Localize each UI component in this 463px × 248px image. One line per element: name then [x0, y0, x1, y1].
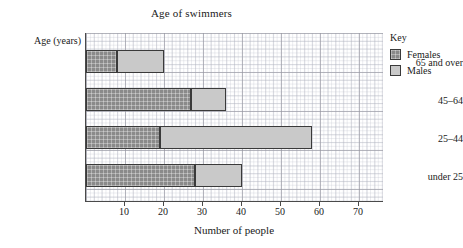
chart-title: Age of swimmers: [0, 7, 383, 19]
bar-segment-males: [160, 126, 312, 149]
legend-swatch-females-icon: [390, 49, 401, 60]
bar-segment-females: [86, 50, 117, 73]
legend-item-females: Females: [390, 49, 463, 60]
x-axis-tick-label: 30: [187, 206, 217, 217]
bar-segment-males: [117, 50, 164, 73]
legend-label-females: Females: [407, 49, 440, 60]
bar-segment-females: [86, 126, 160, 149]
category-label-45-64: 45–64: [383, 95, 463, 106]
x-axis-tick-label: 50: [265, 206, 295, 217]
legend-swatch-males-icon: [390, 65, 401, 76]
bar-segment-males: [195, 164, 242, 187]
category-label-under-25: under 25: [383, 171, 463, 182]
y-axis-label: Age (years): [0, 35, 81, 46]
legend-item-males: Males: [390, 65, 463, 76]
plot-area: [85, 33, 383, 202]
category-label-25-44: 25–44: [383, 133, 463, 144]
x-axis-tick-label: 60: [304, 206, 334, 217]
x-axis-tick-label: 70: [343, 206, 373, 217]
x-axis-tick-label: 10: [109, 206, 139, 217]
x-axis-tick-label: 20: [148, 206, 178, 217]
bar-chart: Age of swimmers Age (years) 65 and over …: [0, 0, 463, 248]
legend-label-males: Males: [407, 65, 431, 76]
x-axis-tick-label: 40: [226, 206, 256, 217]
legend: Key Females Males: [390, 32, 463, 81]
legend-title: Key: [390, 32, 463, 43]
bar-segment-females: [86, 164, 195, 187]
bar-segment-females: [86, 88, 191, 111]
x-axis-label: Number of people: [85, 224, 383, 236]
bar-segment-males: [191, 88, 226, 111]
